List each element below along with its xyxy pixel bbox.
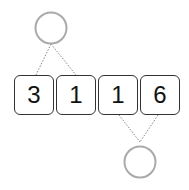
node-circle-top	[36, 13, 67, 44]
array-cell-3: 6	[140, 75, 180, 115]
connector-bottom-left	[119, 115, 140, 142]
array-cell-1: 1	[56, 75, 96, 115]
connector-top-left	[36, 44, 51, 75]
array-cell-0: 3	[14, 75, 54, 115]
connector-bottom-right	[140, 115, 158, 142]
connector-top-right	[51, 44, 76, 75]
array-cell-2: 1	[98, 75, 138, 115]
node-circle-bottom	[125, 147, 156, 178]
